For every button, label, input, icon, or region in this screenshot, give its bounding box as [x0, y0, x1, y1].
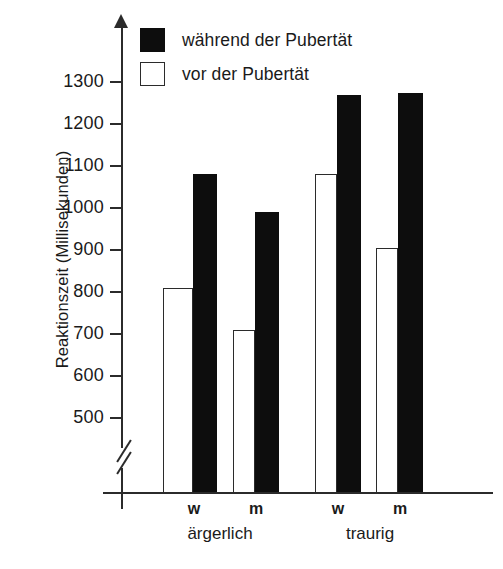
x-category-label-m-aergerlich: m — [226, 500, 286, 518]
y-tick-label-500: 500 — [34, 408, 104, 426]
y-tick-900 — [110, 249, 121, 251]
y-tick-label-text: 700 — [38, 324, 104, 342]
y-tick-1200 — [110, 123, 121, 125]
y-tick-label-text: 600 — [38, 366, 104, 384]
legend-label-waehrend: während der Pubertät — [182, 30, 352, 51]
bar-traurig-m-vor — [376, 248, 398, 492]
legend-swatch-open-icon — [140, 62, 165, 86]
legend-swatch-filled-icon — [140, 28, 165, 52]
y-tick-label-text: 1000 — [38, 198, 104, 216]
bar-traurig-m-waehrend — [398, 93, 423, 492]
y-tick-label-text: 900 — [38, 240, 104, 258]
legend-label-vor: vor der Pubertät — [182, 64, 309, 85]
x-axis-line — [103, 492, 493, 494]
axis-break-icon — [108, 440, 138, 474]
y-tick-label-900: 900 — [34, 240, 104, 258]
x-group-label-aergerlich: ärgerlich — [140, 524, 300, 544]
y-tick-700 — [110, 333, 121, 335]
y-axis-arrow-icon — [114, 14, 128, 28]
x-group-label-traurig: traurig — [290, 524, 450, 544]
y-tick-label-text: 1200 — [38, 114, 104, 132]
legend-item-waehrend: während der Pubertät — [140, 25, 352, 55]
bar-traurig-w-waehrend — [337, 95, 361, 492]
bar-ärgerlich-w-waehrend — [193, 174, 217, 492]
legend: während der Pubertät vor der Pubertät — [140, 25, 352, 93]
y-tick-label-text: 1300 — [38, 72, 104, 90]
bar-ärgerlich-w-vor — [163, 288, 193, 492]
y-tick-label-1200: 1200 — [34, 114, 104, 132]
y-tick-label-1100: 1100 — [34, 156, 104, 174]
bar-chart-figure: Reaktionszeit (Millisekunden) 1300120011… — [0, 0, 503, 569]
y-tick-label-text: 1100 — [38, 156, 104, 174]
y-tick-800 — [110, 291, 121, 293]
y-tick-label-1300: 1300 — [34, 72, 104, 90]
y-tick-label-600: 600 — [34, 366, 104, 384]
y-tick-600 — [110, 375, 121, 377]
bar-ärgerlich-m-waehrend — [255, 212, 279, 492]
y-tick-500 — [110, 417, 121, 419]
y-tick-label-800: 800 — [34, 282, 104, 300]
y-tick-label-1000: 1000 — [34, 198, 104, 216]
x-category-label-m-traurig: m — [370, 500, 430, 518]
bar-ärgerlich-m-vor — [233, 330, 255, 492]
y-tick-label-text: 500 — [38, 408, 104, 426]
y-tick-1100 — [110, 165, 121, 167]
y-tick-label-text: 800 — [38, 282, 104, 300]
y-tick-label-700: 700 — [34, 324, 104, 342]
y-axis-line — [121, 24, 123, 494]
x-axis-origin-stub — [121, 492, 123, 509]
legend-item-vor: vor der Pubertät — [140, 59, 352, 89]
y-tick-1300 — [110, 81, 121, 83]
x-category-label-w-traurig: w — [308, 500, 368, 518]
x-category-label-w-aergerlich: w — [164, 500, 224, 518]
y-tick-1000 — [110, 207, 121, 209]
bar-traurig-w-vor — [315, 174, 337, 492]
